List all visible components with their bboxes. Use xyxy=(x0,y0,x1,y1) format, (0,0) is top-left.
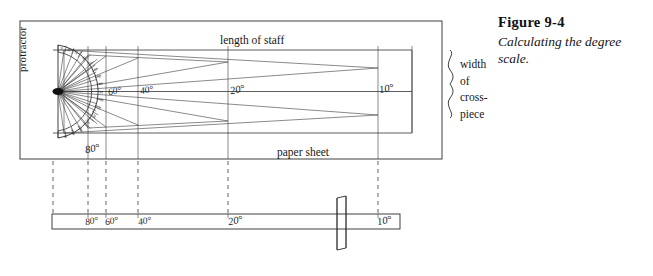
label-protractor: protractor xyxy=(16,27,28,72)
protractor-origin-point xyxy=(53,88,64,95)
label-width-of-cross-piece: width of cross- piece xyxy=(460,56,487,123)
svg-text:10: 10 xyxy=(59,46,64,51)
width-line-4: piece xyxy=(460,106,487,123)
svg-text:100: 100 xyxy=(98,97,105,103)
svg-text:60: 60 xyxy=(93,67,98,72)
projection-dashed-lines xyxy=(53,161,378,213)
svg-text:160: 160 xyxy=(63,133,67,139)
svg-text:110: 110 xyxy=(94,104,101,110)
figure-9-4-illustration: .ln { stroke:#2a2a2a; fill:none; stroke-… xyxy=(0,0,653,276)
svg-text:20: 20 xyxy=(66,47,71,52)
svg-text:80: 80 xyxy=(99,82,103,86)
cross-piece-board xyxy=(337,196,346,250)
degree-tick-lines xyxy=(64,46,412,159)
figure-caption: Figure 9-4 Calculating the degree scale. xyxy=(498,14,648,67)
svg-text:90: 90 xyxy=(99,90,104,95)
label-paper-sheet: paper sheet xyxy=(277,146,329,158)
svg-text:70: 70 xyxy=(97,75,101,79)
width-line-3: cross- xyxy=(460,89,487,106)
label-length-of-staff: length of staff xyxy=(220,34,284,46)
figure-caption-text: Calculating the degree scale. xyxy=(498,33,648,68)
figure-caption-title: Figure 9-4 xyxy=(498,14,648,31)
cross-piece-brace xyxy=(448,50,453,118)
width-line-1: width xyxy=(460,56,487,73)
width-line-2: of xyxy=(460,73,487,90)
protractor-tick-numbers: 10 20 30 40 50 60 70 80 90 100 110 120 1… xyxy=(59,46,104,138)
